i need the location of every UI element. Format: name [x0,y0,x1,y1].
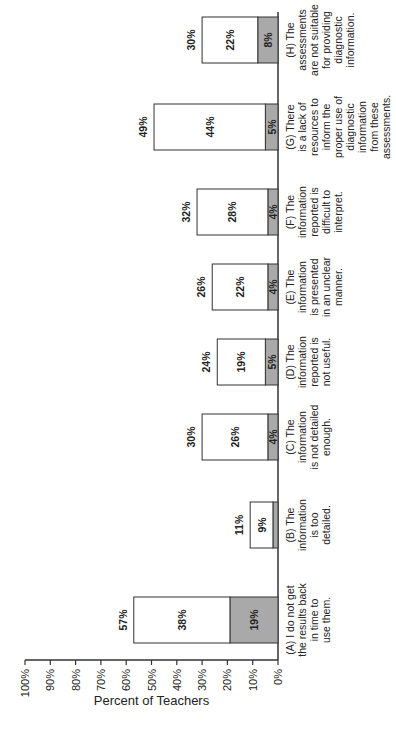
y-tick-label: 80% [70,669,82,691]
data-label-grey: 8% [262,32,274,48]
y-tick-label: 70% [95,669,107,691]
x-tick-label: enough. [320,418,332,456]
x-tick-label: information [296,499,308,551]
y-tick-label: 30% [196,669,208,691]
data-label-white: 19% [235,351,247,373]
x-tick-label: (E) The [284,269,296,304]
data-label-total: 49% [137,116,149,138]
data-label-white: 22% [224,29,236,51]
x-tick-label: assessments. [380,95,392,159]
x-tick-label: (H) The [284,22,296,58]
x-tick-label: detailed. [320,505,332,545]
chart: 0%10%20%30%40%50%60%70%80%90%100%Percent… [0,0,396,741]
x-tick-label: from these [368,102,380,152]
x-tick-label: for providing [320,11,332,69]
x-tick-label: information [296,261,308,313]
x-tick-label: reported is [308,337,320,387]
x-tick-label: (D) The [284,344,296,380]
x-tick-label: manner. [332,268,344,306]
data-label-grey: 5% [266,119,278,135]
data-label-grey: 4% [267,429,279,445]
x-tick-label: information. [344,13,356,68]
data-label-total: 30% [185,426,197,448]
data-label-total: 32% [180,201,192,223]
x-tick-label: in an unclear [320,256,332,317]
x-tick-label: information [296,336,308,388]
data-label-white: 38% [176,609,188,631]
y-axis-title: Percent of Teachers [94,693,210,708]
y-tick-label: 50% [146,669,158,691]
x-tick-label: resources to [308,98,320,156]
x-tick-label: is not detailed [308,404,320,469]
x-tick-label: information [296,186,308,238]
x-tick-label: use them. [320,597,332,643]
x-tick-label: difficult to [320,190,332,234]
data-label-total: 26% [195,276,207,298]
data-label-white: 28% [226,201,238,223]
y-tick-label: 40% [171,669,183,691]
x-tick-label: information [356,101,368,153]
data-label-white: 44% [204,116,216,138]
data-label-grey: 5% [266,354,278,370]
bar-segment-grey [273,502,278,548]
x-tick-label: (G) There [284,104,296,149]
x-tick-label: in time to [308,599,320,642]
data-label-total: 57% [117,609,129,631]
x-tick-label: are not suitable [308,4,320,76]
x-tick-label: inform the [320,103,332,150]
data-label-white: 9% [256,517,268,533]
x-tick-label: diagnostic [344,103,356,150]
x-tick-label: is a lack of [296,102,308,152]
plot-area: 0%10%20%30%40%50%60%70%80%90%100%Percent… [19,4,392,708]
x-tick-label: interpret. [332,191,344,232]
data-label-total: 30% [185,29,197,51]
y-tick-label: 20% [221,669,233,691]
y-tick-label: 60% [120,669,132,691]
data-label-white: 22% [234,276,246,298]
y-tick-label: 10% [247,669,259,691]
x-tick-label: the results back [296,582,308,656]
data-label-white: 26% [229,426,241,448]
data-label-grey: 4% [267,279,279,295]
x-tick-label: assessments [296,9,308,70]
data-label-grey: 4% [267,204,279,220]
x-tick-label: (F) The [284,195,296,229]
x-tick-label: diagnostic [332,16,344,63]
x-tick-label: reported is [308,187,320,237]
x-tick-label: is too [308,512,320,537]
x-tick-label: (A) I do not get [284,585,296,655]
x-tick-label: (B) The [284,507,296,542]
y-tick-label: 90% [44,669,56,691]
chart-rotated-group: 0%10%20%30%40%50%60%70%80%90%100%Percent… [19,4,392,708]
y-tick-label: 100% [19,669,31,697]
y-tick-label: 0% [272,669,284,685]
x-tick-label: is presented [308,258,320,315]
x-tick-label: information [296,411,308,463]
data-label-total: 11% [233,514,245,535]
x-tick-label: proper use of [332,96,344,158]
x-tick-label: not useful. [320,338,332,386]
data-label-total: 24% [200,351,212,373]
x-tick-label: (C) The [284,419,296,455]
data-label-grey: 19% [248,609,260,631]
